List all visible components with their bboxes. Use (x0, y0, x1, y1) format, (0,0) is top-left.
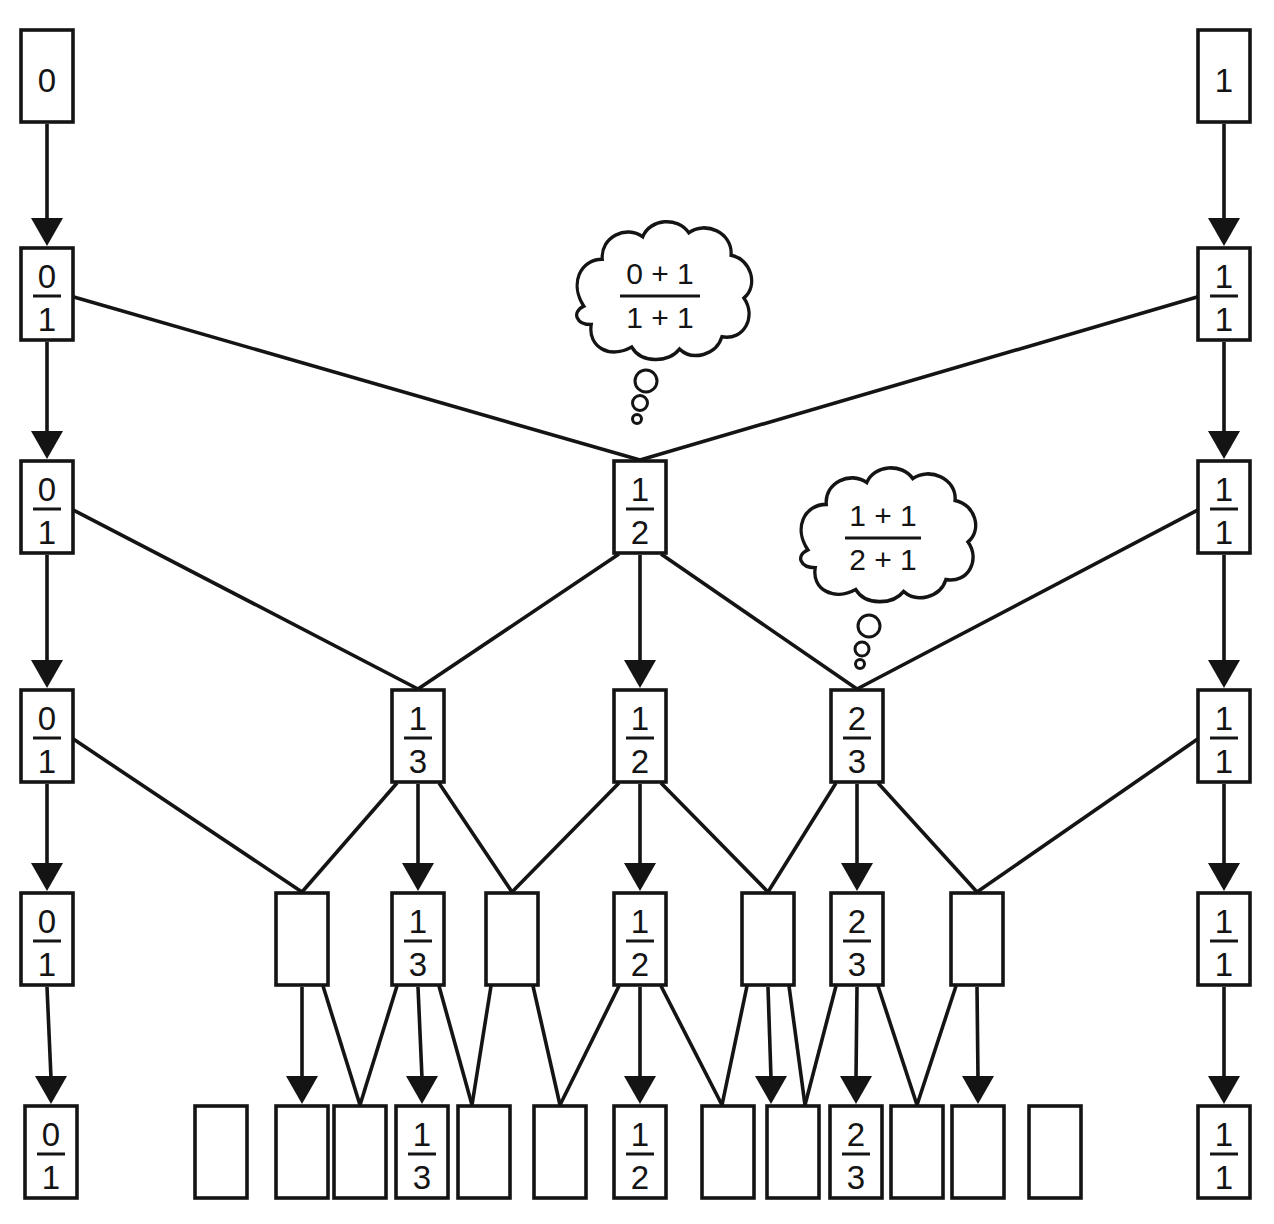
arrowhead-icon-r4-13-to-r5-13 (402, 863, 434, 891)
box-r6-b2 (195, 1106, 247, 1198)
mediant-line-r5-23-to-r6-b12 (878, 986, 917, 1105)
denominator-r6-13: 3 (413, 1159, 431, 1196)
denominator-r4-11: 1 (1215, 743, 1233, 780)
numerator-r3-12: 1 (631, 471, 649, 508)
arrowhead-icon-r4-23-to-r5-23 (841, 863, 873, 891)
arrowhead-icon-r4-11-to-r5-11 (1208, 863, 1240, 891)
numerator-r6-01: 0 (42, 1116, 60, 1153)
denominator-r2-01: 1 (38, 301, 56, 338)
mediant-line-r4-13-to-r5-e2 (439, 783, 512, 892)
mediant-line-r5-e4-to-r6-b12 (917, 986, 956, 1105)
arrowhead-icon-r4-12-to-r5-12 (624, 863, 656, 891)
numerator-r6-11: 1 (1215, 1116, 1233, 1153)
box-r6-b10 (767, 1106, 819, 1198)
arrowhead-icon-r1-one-to-r2-11 (1208, 218, 1240, 246)
arrowhead-icon-r4-01-to-r5-01 (31, 863, 63, 891)
denominator-r3-11: 1 (1215, 514, 1233, 551)
box-r6-b14 (1029, 1106, 1081, 1198)
arrowhead-icon-r5-11-to-r6-11 (1208, 1076, 1240, 1104)
numerator-r6-12: 1 (631, 1116, 649, 1153)
denominator-r6-01: 1 (42, 1159, 60, 1196)
arrowhead-icon-r3-12-to-r4-12 (624, 660, 656, 688)
bubble-denominator: 1 + 1 (626, 301, 694, 334)
thought-bubbles-layer: 0 + 11 + 11 + 12 + 1 (577, 222, 976, 669)
denominator-r5-23: 3 (848, 946, 866, 983)
arrowhead-icon-r1-zero-to-r2-01 (31, 218, 63, 246)
bubble-numerator: 0 + 1 (626, 257, 694, 290)
numerator-r5-11: 1 (1215, 903, 1233, 940)
arrowhead-icon-r5-01-to-r6-01 (35, 1076, 67, 1104)
mediant-line-r5-e3-to-r6-b10 (789, 986, 805, 1105)
mediant-line-r4-01-to-r5-e1 (73, 739, 302, 892)
arrowhead-icon-r5-e3-to-r6-b10 (755, 1076, 787, 1104)
denominator-r5-12: 2 (631, 946, 649, 983)
arrowhead-icon-r2-01-to-r3-01 (31, 431, 63, 459)
numerator-r3-01: 0 (38, 471, 56, 508)
box-r5-e3 (742, 893, 794, 985)
arrow-shaft-r5-e4-to-r6-b13 (977, 987, 978, 1078)
denominator-r6-23: 3 (847, 1159, 865, 1196)
mediant-line-r5-e2-to-r6-b7 (533, 986, 560, 1105)
label-r1-one: 1 (1215, 62, 1233, 99)
arrowhead-icon-r3-11-to-r4-11 (1208, 660, 1240, 688)
thought-bubble-tail-dot-icon (856, 660, 865, 669)
mediant-line-r4-11-to-r5-e4 (977, 739, 1198, 892)
arrowhead-icon-r5-e4-to-r6-b13 (962, 1076, 994, 1104)
arrowhead-icon-r5-12-to-r6-12 (624, 1076, 656, 1104)
mediant-line-r4-12-to-r5-e2 (512, 783, 619, 892)
bubble-numerator: 1 + 1 (849, 499, 917, 532)
numerator-r5-12: 1 (631, 903, 649, 940)
thought-bubble-tail-dot-icon (633, 415, 642, 424)
denominator-r2-11: 1 (1215, 301, 1233, 338)
box-r6-b13 (952, 1106, 1004, 1198)
mediant-line-r5-e2-to-r6-b6 (472, 986, 491, 1105)
numerator-r4-13: 1 (409, 700, 427, 737)
mediant-line-r5-23-to-r6-b10 (805, 986, 836, 1105)
numerator-r6-23: 2 (847, 1116, 865, 1153)
mediant-line-r4-23-to-r5-e3 (768, 783, 836, 892)
arrowhead-icon-r5-e1-to-r6-b3 (286, 1076, 318, 1104)
box-r6-b3 (276, 1106, 328, 1198)
denominator-r3-01: 1 (38, 514, 56, 551)
numerator-r3-11: 1 (1215, 471, 1233, 508)
box-r6-b6 (458, 1106, 510, 1198)
box-r6-b9 (702, 1106, 754, 1198)
thought-bubble-tail-dot-icon (633, 396, 648, 411)
numerator-r4-12: 1 (631, 700, 649, 737)
thought-bubble-1: 0 + 11 + 1 (577, 222, 752, 424)
arrowhead-icon-r5-13-to-r6-13 (406, 1076, 438, 1104)
numerator-r4-11: 1 (1215, 700, 1233, 737)
numerator-r4-23: 2 (848, 700, 866, 737)
denominator-r6-11: 1 (1215, 1159, 1233, 1196)
numerator-r5-23: 2 (848, 903, 866, 940)
numerator-r5-01: 0 (38, 903, 56, 940)
mediant-line-r5-12-to-r6-b9 (661, 986, 722, 1105)
box-r6-b12 (891, 1106, 943, 1198)
thought-bubble-cloud-icon (801, 468, 976, 602)
bubble-denominator: 2 + 1 (849, 543, 917, 576)
arrow-shaft-r5-23-to-r6-23 (856, 987, 857, 1078)
denominator-r5-01: 1 (38, 946, 56, 983)
arrowhead-icon-r5-23-to-r6-23 (840, 1076, 872, 1104)
arrow-shaft-r5-01-to-r6-01 (47, 987, 51, 1078)
mediant-line-r4-13-to-r5-e1 (302, 783, 397, 892)
mediant-line-r2-01-to-r3-12 (73, 297, 640, 460)
thought-bubble-cloud-icon (577, 222, 752, 360)
thought-bubble-tail-dot-icon (635, 370, 657, 392)
denominator-r3-12: 2 (631, 514, 649, 551)
numerator-r2-01: 0 (38, 258, 56, 295)
box-r5-e4 (951, 893, 1003, 985)
mediant-line-r5-e3-to-r6-b9 (722, 986, 747, 1105)
numerator-r5-13: 1 (409, 903, 427, 940)
denominator-r6-12: 2 (631, 1159, 649, 1196)
diagram-canvas: 0101110112110113122311011312231101131223… (0, 0, 1274, 1224)
thought-bubble-tail-dot-icon (858, 615, 880, 637)
mediant-line-r5-13-to-r6-b6 (439, 986, 472, 1105)
denominator-r5-11: 1 (1215, 946, 1233, 983)
arrowhead-icon-r2-11-to-r3-11 (1208, 431, 1240, 459)
numerator-r2-11: 1 (1215, 258, 1233, 295)
box-r6-b4 (334, 1106, 386, 1198)
box-r5-e2 (486, 893, 538, 985)
numerator-r6-13: 1 (413, 1116, 431, 1153)
mediant-line-r3-01-to-r4-13 (73, 510, 418, 689)
